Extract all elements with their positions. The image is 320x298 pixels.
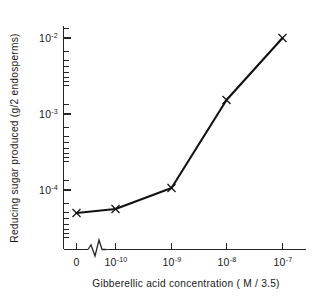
x-tick-label-3: 10-8 (218, 255, 237, 269)
x-axis: 0 10-10 10-9 10-8 10-7 (64, 240, 307, 268)
y-tick-label-0: 10-2 (39, 31, 58, 45)
y-tick-label-1: 10-3 (39, 107, 58, 121)
x-axis-break-icon (88, 240, 106, 256)
x-tick-label-2: 10-9 (163, 255, 182, 269)
x-tick-label-0: 0 (73, 256, 79, 268)
y-axis: 10-2 10-3 10-4 (39, 26, 70, 249)
chart-figure: 10-2 10-3 10-4 0 10-10 10-9 10-8 10-7 (0, 0, 320, 298)
y-ticks-minor (64, 29, 69, 237)
data-point-marker (279, 34, 287, 42)
y-tick-label-2: 10-4 (39, 183, 58, 197)
series-line-path (77, 38, 283, 213)
x-tick-label-4: 10-7 (274, 255, 293, 269)
data-point-marker (223, 96, 231, 104)
y-axis-title: Reducing sugar produced (g/2 endosperms) (9, 33, 20, 242)
x-tick-label-1: 10-10 (104, 255, 127, 269)
data-series-reducing-sugar (73, 34, 287, 217)
x-axis-title: Gibberellic acid concentration ( M / 3.5… (92, 278, 279, 289)
